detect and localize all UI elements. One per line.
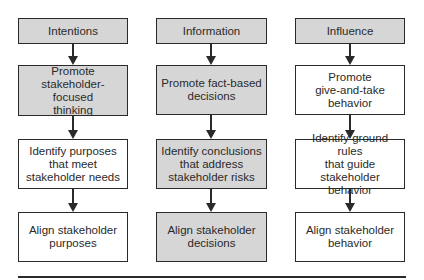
node-label-line: Align stakeholder bbox=[29, 224, 117, 237]
node-label-line: decisions bbox=[161, 90, 261, 103]
node-label-line: give-and-take bbox=[315, 84, 385, 97]
node-information-header: Information bbox=[156, 18, 267, 44]
node-intentions-header: Intentions bbox=[18, 18, 128, 44]
node-identify-ground-rules: Identify ground rules that guide stakeho… bbox=[295, 139, 405, 189]
node-align-stakeholder-decisions: Align stakeholder decisions bbox=[156, 212, 267, 262]
node-label-line: Promote fact-based bbox=[161, 77, 261, 90]
node-label-line: Identify ground rules bbox=[299, 132, 401, 158]
node-align-stakeholder-purposes: Align stakeholder purposes bbox=[18, 212, 128, 262]
node-label-line: stakeholder-focused bbox=[22, 78, 124, 104]
node-label-line: decisions bbox=[167, 237, 255, 250]
node-label-line: Align stakeholder bbox=[167, 224, 255, 237]
node-label-line: that meet bbox=[26, 158, 120, 171]
node-label-line: thinking bbox=[22, 104, 124, 117]
node-label-line: that guide bbox=[299, 158, 401, 171]
node-label-line: stakeholder needs bbox=[26, 171, 120, 184]
node-label-line: behavior bbox=[315, 97, 385, 110]
node-align-stakeholder-behavior: Align stakeholder behavior bbox=[295, 212, 405, 262]
node-promote-fact-based-decisions: Promote fact-based decisions bbox=[156, 65, 267, 115]
node-label: Influence bbox=[327, 25, 374, 38]
node-label-line: Identify purposes bbox=[26, 145, 120, 158]
node-label-line: Align stakeholder bbox=[306, 224, 394, 237]
node-promote-stakeholder-focused-thinking: Promote stakeholder-focused thinking bbox=[18, 65, 128, 116]
bottom-divider bbox=[18, 276, 406, 278]
node-label-line: Identify conclusions bbox=[161, 145, 261, 158]
node-label-line: Promote bbox=[22, 65, 124, 78]
node-identify-purposes: Identify purposes that meet stakeholder … bbox=[18, 139, 128, 189]
node-influence-header: Influence bbox=[295, 18, 405, 44]
node-promote-give-and-take-behavior: Promote give-and-take behavior bbox=[295, 65, 405, 115]
node-label: Intentions bbox=[48, 25, 98, 38]
node-label-line: that address bbox=[161, 158, 261, 171]
node-label: Information bbox=[183, 25, 241, 38]
node-label-line: behavior bbox=[306, 237, 394, 250]
node-label-line: stakeholder risks bbox=[161, 171, 261, 184]
node-identify-conclusions: Identify conclusions that address stakeh… bbox=[156, 139, 267, 189]
node-label-line: Promote bbox=[315, 71, 385, 84]
flow-diagram: Intentions Promote stakeholder-focused t… bbox=[0, 0, 424, 280]
node-label-line: purposes bbox=[29, 237, 117, 250]
